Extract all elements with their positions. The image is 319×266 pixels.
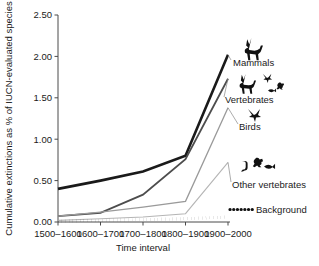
y-axis-title: Cumulative extinctions as % of IUCN-eval… <box>3 1 14 236</box>
frog-silhouette-icon <box>277 82 284 89</box>
series-line-birds <box>58 108 228 216</box>
leader-line-birds <box>228 108 238 124</box>
leader-line-other-vertebrates <box>228 162 231 182</box>
reptile-frog-fish-silhouette-icon <box>241 158 275 172</box>
fish-silhouette-icon <box>268 89 276 93</box>
series-label-background: Background <box>256 204 307 215</box>
fish-silhouette-icon <box>264 164 275 169</box>
y-tick-label: 2.00 <box>34 51 53 62</box>
annotations-group: MammalsVertebratesBirdsOther vertebrates… <box>224 38 307 215</box>
y-tick-label: 0.50 <box>34 175 53 186</box>
x-tick-group: 1500–16001600–17001700–18001800–19001900… <box>34 222 252 239</box>
series-label-vertebrates: Vertebrates <box>225 94 274 105</box>
frog-body-path <box>277 82 284 89</box>
series-line-vertebrates <box>58 79 228 216</box>
series-label-other-vertebrates: Other vertebrates <box>232 179 306 190</box>
bird-body-path <box>263 74 272 83</box>
y-tick-label: 1.00 <box>34 134 53 145</box>
x-tick-label: 1900–2000 <box>204 228 252 239</box>
series-label-mammals: Mammals <box>233 57 274 68</box>
series-group <box>58 55 228 221</box>
y-tick-label: 2.50 <box>34 9 53 20</box>
x-axis-title: Time interval <box>116 242 170 253</box>
series-line-mammals <box>58 55 228 189</box>
x-tick-label: 1600–1700 <box>77 228 125 239</box>
x-tick-label: 1500–1600 <box>34 228 82 239</box>
y-tick-label: 1.50 <box>34 92 53 103</box>
vertebrates-group-silhouette-icon <box>240 74 284 94</box>
chart-canvas: 0.000.501.001.502.002.501500–16001600–17… <box>0 0 319 266</box>
fish-body-path <box>268 89 276 93</box>
series-label-birds: Birds <box>239 121 261 132</box>
fish-body-path <box>264 164 275 169</box>
lizard-body-path <box>241 161 248 171</box>
chart-figure: 0.000.501.001.502.002.501500–16001600–17… <box>0 0 319 266</box>
y-tick-label: 0.00 <box>34 216 53 227</box>
x-tick-label: 1800–1900 <box>162 228 210 239</box>
bird-silhouette-icon <box>263 74 272 83</box>
lizard-silhouette-icon <box>241 161 248 171</box>
deer-silhouette-icon <box>240 74 256 94</box>
frog-body-path <box>253 158 263 168</box>
deer-body-path <box>240 74 256 94</box>
x-tick-label: 1700–1800 <box>119 228 167 239</box>
frog-silhouette-icon <box>253 158 263 168</box>
y-tick-group: 0.000.501.001.502.002.50 <box>34 9 59 227</box>
leader-line-mammals <box>228 55 231 60</box>
